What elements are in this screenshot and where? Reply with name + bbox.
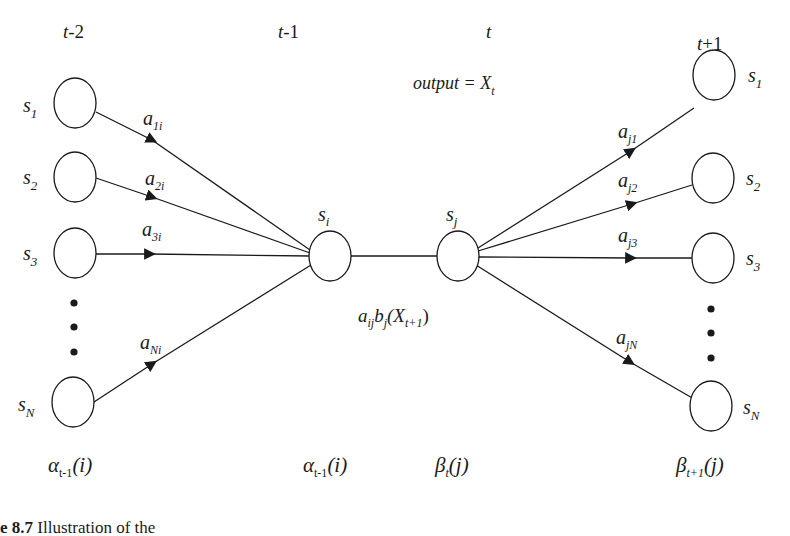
svg-text:s3: s3 <box>23 242 38 269</box>
alpha-center-label: αt-1(i) <box>303 453 347 480</box>
left-ellipsis-dots <box>70 299 77 355</box>
svg-text:t-1: t-1 <box>278 21 299 42</box>
node-sj <box>437 231 479 281</box>
node-left-s2 <box>54 152 96 202</box>
node-right-s3 <box>692 233 734 283</box>
edge-aj2 <box>478 204 632 251</box>
output-label: output = Xt <box>413 73 495 98</box>
time-label-t: t <box>486 21 492 42</box>
edge-a2i <box>96 178 152 197</box>
edge-aNi <box>94 364 152 402</box>
beta-center-label: βt(j) <box>434 453 469 480</box>
svg-text:βt(j): βt(j) <box>434 453 469 480</box>
svg-text:αt-1(i): αt-1(i) <box>303 453 347 480</box>
node-right-s2 <box>692 153 734 203</box>
hmm-forward-backward-diagram: t-2 t-1 t t+1 output = Xt <box>0 0 790 536</box>
outgoing-edges <box>476 108 694 399</box>
figure-caption-text: Illustration of the <box>33 518 155 536</box>
svg-text:sN: sN <box>18 393 36 420</box>
node-si-label: si <box>318 203 330 229</box>
svg-text:s1: s1 <box>748 64 762 91</box>
edge-ajN <box>476 265 630 362</box>
edge-aj1 <box>478 151 631 248</box>
svg-text:t: t <box>486 21 492 42</box>
node-left-sN <box>52 377 94 427</box>
time-label-t-minus-1: t-1 <box>278 21 299 42</box>
svg-text:s3: s3 <box>746 247 761 274</box>
outgoing-edge-labels: aj1 aj2 aj3 ajN <box>616 120 638 352</box>
beta-right-label: βt+1(j) <box>675 453 724 480</box>
left-state-nodes <box>52 78 96 427</box>
right-state-nodes <box>690 50 735 431</box>
figure-caption: e 8.7 Illustration of the <box>0 518 155 536</box>
right-state-labels: s1 s2 s3 sN <box>743 64 762 423</box>
svg-text:aj2: aj2 <box>618 169 637 195</box>
svg-text:a2i: a2i <box>145 167 164 193</box>
svg-text:output = Xt: output = Xt <box>413 73 495 98</box>
node-sj-label: sj <box>446 203 458 229</box>
svg-text:sN: sN <box>743 396 761 423</box>
svg-text:s2: s2 <box>746 167 761 194</box>
node-left-s1 <box>54 78 96 128</box>
svg-text:aijbj(Xt+1): aijbj(Xt+1) <box>358 305 429 330</box>
svg-text:aj1: aj1 <box>618 120 637 146</box>
svg-text:βt+1(j): βt+1(j) <box>675 453 724 480</box>
transition-emission-label: aijbj(Xt+1) <box>358 305 429 330</box>
svg-text:s1: s1 <box>23 94 37 121</box>
svg-text:a3i: a3i <box>142 218 161 244</box>
svg-text:t-2: t-2 <box>63 21 84 42</box>
edge-aj3 <box>478 257 631 258</box>
alpha-left-label: αt-1(i) <box>48 453 92 480</box>
svg-text:aj3: aj3 <box>618 224 637 250</box>
node-si <box>309 231 351 281</box>
svg-text:sj: sj <box>446 203 458 229</box>
left-state-labels: s1 s2 s3 sN <box>18 94 38 420</box>
node-right-sN <box>690 381 732 431</box>
node-left-s3 <box>54 228 96 278</box>
svg-text:si: si <box>318 203 330 229</box>
svg-text:ajN: ajN <box>616 326 638 352</box>
svg-text:αt-1(i): αt-1(i) <box>48 453 92 480</box>
incoming-edge-labels: a1i a2i a3i aNi <box>140 107 164 357</box>
svg-text:s2: s2 <box>23 166 38 193</box>
svg-text:a1i: a1i <box>143 107 162 133</box>
svg-text:aNi: aNi <box>140 331 161 357</box>
right-ellipsis-dots <box>707 305 714 361</box>
node-right-s1 <box>693 50 735 100</box>
time-label-t-minus-2: t-2 <box>63 21 84 42</box>
incoming-edges <box>94 112 311 402</box>
figure-number: e 8.7 <box>0 518 33 536</box>
